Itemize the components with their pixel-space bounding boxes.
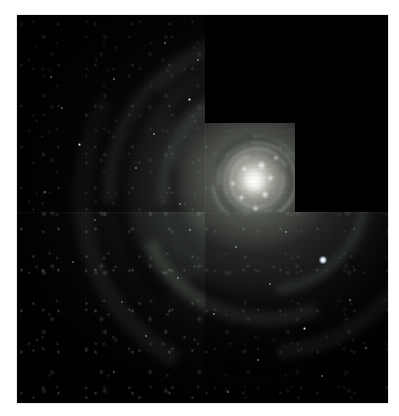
galaxy-image-plate: Hubble Space Telescope WFPC2 mosaic of a… xyxy=(17,15,388,403)
image-vignette xyxy=(17,15,388,403)
page-root: Hubble Space Telescope WFPC2 mosaic of a… xyxy=(0,0,399,416)
